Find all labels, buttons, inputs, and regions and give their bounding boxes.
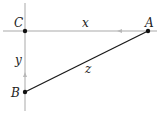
- triangle-diagram: C A B x y z: [0, 0, 159, 124]
- label-z: z: [84, 62, 92, 76]
- label-y: y: [14, 53, 22, 67]
- arrow-left-icon: [117, 29, 122, 33]
- label-c: C: [14, 16, 23, 30]
- label-b: B: [10, 86, 20, 100]
- label-a: A: [144, 16, 154, 30]
- label-x: x: [82, 16, 89, 30]
- point-c: [23, 29, 27, 33]
- arrow-up-icon: [23, 72, 27, 77]
- point-b: [23, 90, 27, 94]
